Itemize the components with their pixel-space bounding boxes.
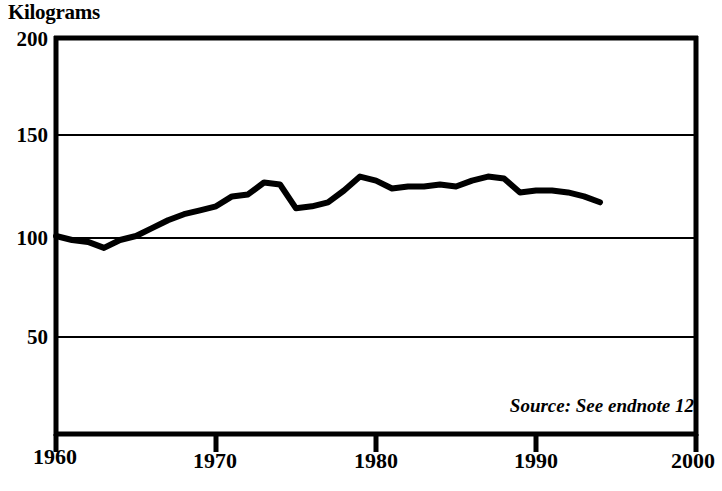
x-tick-label-2000: 2000 — [653, 450, 722, 472]
y-tick-label-200: 200 — [0, 29, 48, 50]
chart-figure: Kilograms 200 150 100 50 1960 1970 1980 … — [0, 0, 722, 491]
y-tick-label-100: 100 — [0, 228, 48, 249]
x-tick-label-1960: 1960 — [15, 446, 95, 468]
plot-area — [0, 0, 722, 491]
axis-frame — [54, 36, 698, 436]
y-tick-label-150: 150 — [0, 125, 48, 146]
y-tick-label-50: 50 — [0, 327, 48, 348]
x-tick-label-1970: 1970 — [175, 450, 255, 472]
source-annotation: Source: See endnote 12 — [510, 396, 694, 416]
y-axis-title: Kilograms — [8, 0, 100, 24]
gridlines — [55, 135, 697, 337]
x-tick-label-1980: 1980 — [336, 450, 416, 472]
x-tick-label-1990: 1990 — [496, 450, 576, 472]
